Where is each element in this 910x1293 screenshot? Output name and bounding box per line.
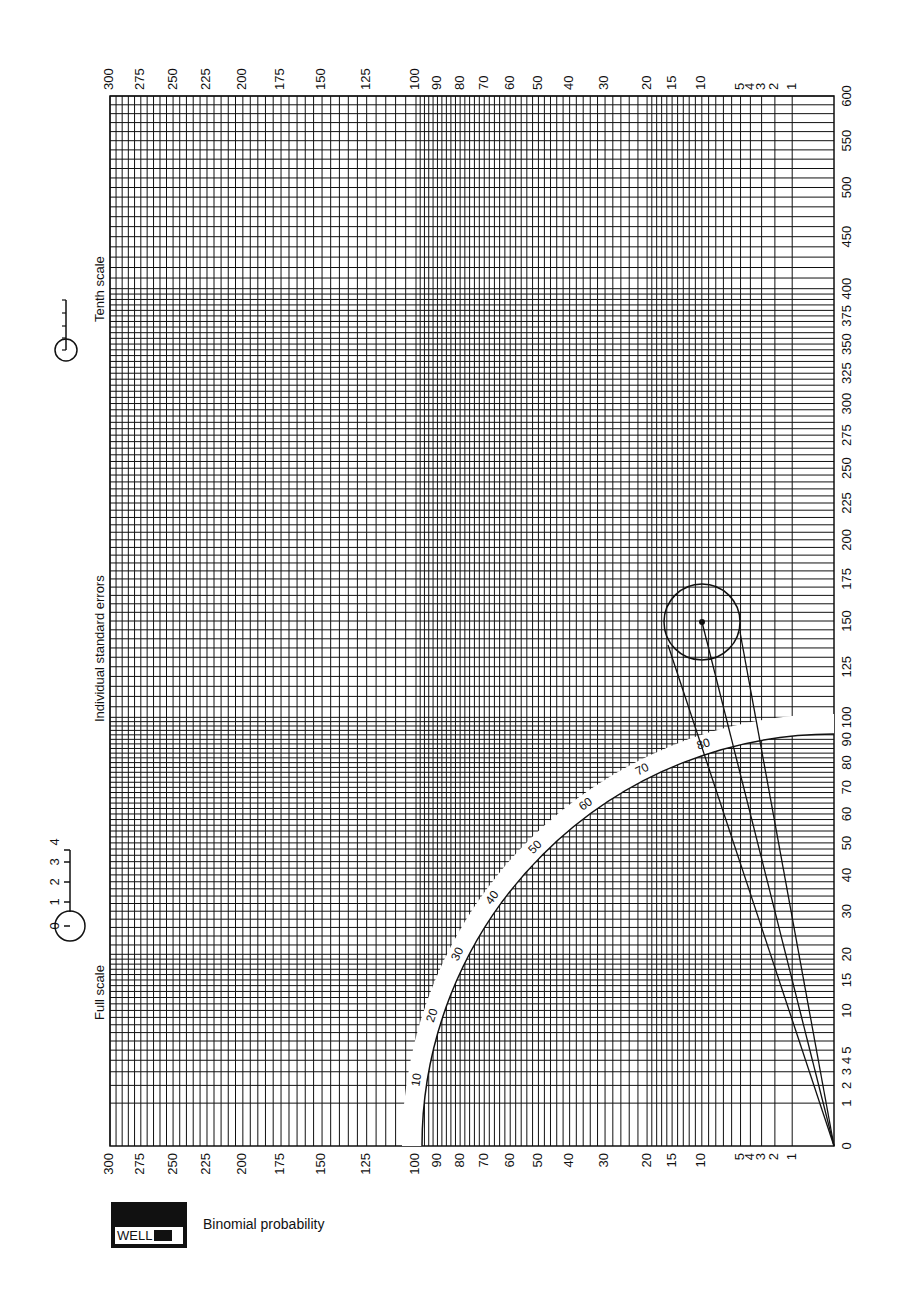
axis-tick-label: 60: [502, 1153, 517, 1167]
axis-tick-label: 250: [165, 68, 180, 90]
axis-tick-label: 70: [476, 76, 491, 90]
axis-tick-label: 20: [839, 947, 854, 961]
axis-tick-label: 2: [766, 1153, 781, 1160]
axis-tick-label: 70: [476, 1153, 491, 1167]
tenth-scale-label: Tenth scale: [92, 256, 107, 322]
axis-tick-label: 30: [839, 904, 854, 918]
ruler-tick-label: 0: [47, 922, 62, 929]
ruler-tick-label: 2: [47, 878, 62, 885]
axis-tick-label: 100: [407, 68, 422, 90]
axis-tick-label: 50: [839, 836, 854, 850]
axis-tick-label: 150: [839, 610, 854, 632]
grid: [110, 96, 834, 1146]
axis-tick-label: 30: [596, 76, 611, 90]
axis-tick-label: 275: [132, 1153, 147, 1175]
ruler-tick-label: 3: [47, 858, 62, 865]
axis-tick-label: 500: [839, 177, 854, 199]
axis-tick-label: 2: [766, 83, 781, 90]
axis-tick-label: 60: [839, 807, 854, 821]
axis-tick-label: 40: [561, 76, 576, 90]
axis-tick-label: 150: [313, 1153, 328, 1175]
axis-tick-label: 300: [839, 393, 854, 415]
axis-tick-label: 325: [839, 362, 854, 384]
axis-tick-label: 15: [664, 76, 679, 90]
axis-tick-label: 40: [839, 868, 854, 882]
axis-tick-label: 200: [234, 1153, 249, 1175]
axis-tick-label: 250: [839, 457, 854, 479]
axis-tick-label: 225: [839, 492, 854, 514]
axis-tick-label: 70: [839, 780, 854, 794]
axis-tick-label: 0: [839, 1142, 854, 1149]
axis-tick-label: 1: [839, 1100, 854, 1107]
axis-tick-label: 30: [596, 1153, 611, 1167]
axis-tick-label: 175: [272, 1153, 287, 1175]
tenth-scale-ruler-icon: [55, 300, 77, 361]
axis-tick-label: 200: [234, 68, 249, 90]
axis-tick-label: 1: [784, 1153, 799, 1160]
axis-tick-label: 400: [839, 278, 854, 300]
axis-tick-label: 50: [530, 1153, 545, 1167]
axis-tick-label: 2: [839, 1082, 854, 1089]
axis-tick-label: 80: [452, 76, 467, 90]
axis-tick-label: 100: [839, 706, 854, 728]
axis-tick-label: 300: [101, 68, 116, 90]
axis-tick-label: 225: [198, 68, 213, 90]
individual-standard-errors-label: Individual standard errors: [92, 575, 107, 722]
axis-tick-label: 125: [839, 656, 854, 678]
quadrant-arc-band: 1020304050607080: [402, 714, 834, 1146]
axis-tick-label: 275: [839, 424, 854, 446]
axis-tick-label: 5: [839, 1047, 854, 1054]
axis-tick-label: 15: [839, 973, 854, 987]
axis-tick-label: 450: [839, 226, 854, 248]
axis-tick-label: 275: [132, 68, 147, 90]
axis-tick-label: 20: [639, 76, 654, 90]
axis-tick-label: 175: [839, 568, 854, 590]
axis-tick-label: 15: [664, 1153, 679, 1167]
axis-tick-label: 80: [452, 1153, 467, 1167]
axis-tick-label: 80: [839, 755, 854, 769]
axis-tick-label: 300: [101, 1153, 116, 1175]
axis-tick-label: 90: [429, 1153, 444, 1167]
axis-tick-label: 90: [839, 732, 854, 746]
axis-tick-label: 40: [561, 1153, 576, 1167]
full-scale-label: Full scale: [92, 965, 107, 1020]
axis-tick-label: 4: [839, 1057, 854, 1064]
axis-tick-label: 50: [530, 76, 545, 90]
axis-tick-label: 200: [839, 529, 854, 551]
chart-title: Binomial probability: [203, 1216, 324, 1232]
arc-tick-label: 10: [408, 1072, 424, 1088]
binomial-probability-paper: 1020304050607080 12345101520304050607080…: [0, 0, 910, 1293]
axis-tick-label: 10: [693, 76, 708, 90]
axis-tick-label: 225: [198, 1153, 213, 1175]
ruler-tick-label: 1: [47, 898, 62, 905]
axis-tick-label: 60: [502, 76, 517, 90]
logo-text: WELL: [117, 1228, 152, 1243]
axis-tick-label: 3: [839, 1068, 854, 1075]
axis-tick-label: 100: [407, 1153, 422, 1175]
axis-tick-label: 5: [732, 1153, 747, 1160]
full-scale-ruler-icon: 01234: [47, 838, 85, 941]
axis-tick-label: 600: [839, 85, 854, 107]
well-logo: WELL: [111, 1202, 187, 1248]
axis-tick-label: 150: [313, 68, 328, 90]
logo-block-icon: [154, 1230, 172, 1241]
axis-tick-label: 125: [358, 68, 373, 90]
axis-tick-label: 175: [272, 68, 287, 90]
axis-tick-label: 1: [784, 83, 799, 90]
axis-tick-label: 10: [839, 1003, 854, 1017]
axis-tick-label: 350: [839, 333, 854, 355]
ruler-tick-label: 4: [47, 838, 62, 845]
axis-tick-label: 90: [429, 76, 444, 90]
axis-tick-label: 125: [358, 1153, 373, 1175]
axis-tick-label: 250: [165, 1153, 180, 1175]
axis-tick-label: 375: [839, 305, 854, 327]
axis-tick-label: 5: [732, 83, 747, 90]
axis-tick-label: 550: [839, 130, 854, 152]
axis-tick-label: 10: [693, 1153, 708, 1167]
axis-tick-label: 20: [639, 1153, 654, 1167]
